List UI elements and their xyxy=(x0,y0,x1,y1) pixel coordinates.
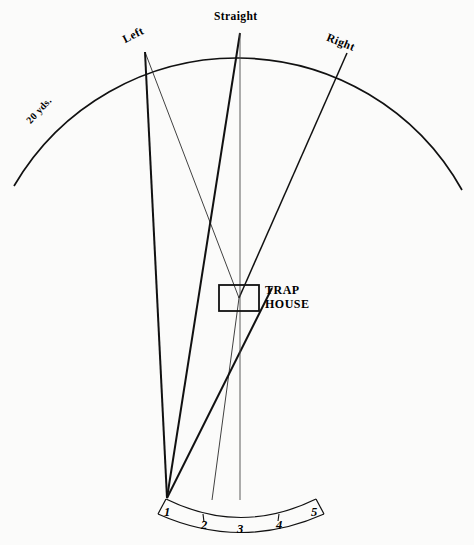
flight-line-house-to-right xyxy=(239,53,347,298)
trap-house-label-line2: HOUSE xyxy=(265,297,310,311)
station-band-inner-edge xyxy=(166,499,316,518)
flight-line-station1-to-straight xyxy=(167,33,240,498)
station-number-2: 2 xyxy=(201,518,207,533)
flight-line-station1-to-left xyxy=(145,52,167,498)
station-number-5: 5 xyxy=(311,505,317,520)
station-number-1: 1 xyxy=(164,505,170,520)
station-number-3: 3 xyxy=(237,522,243,537)
twenty-yard-arc xyxy=(14,58,462,190)
flight-line-house-to-left xyxy=(145,52,239,298)
trap-house-label: TRAP HOUSE xyxy=(265,283,310,311)
trap-house-label-line1: TRAP xyxy=(265,283,310,297)
diagram-canvas xyxy=(0,0,474,545)
arc-target-label-straight: Straight xyxy=(214,10,257,22)
trap-field-diagram: 20 yds. Left Straight Right TRAP HOUSE 1… xyxy=(0,0,474,545)
station-number-4: 4 xyxy=(276,518,282,533)
